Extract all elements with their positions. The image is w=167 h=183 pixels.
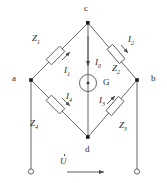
impedance-z2-body (107, 44, 125, 63)
current-arrow-i2 (121, 45, 128, 53)
impedance-z1-body (46, 46, 65, 65)
node-dot-b (135, 78, 139, 82)
current-label-i2: I2 (128, 35, 134, 46)
source-terminals (28, 169, 139, 174)
bridge-branches (31, 23, 137, 169)
node-dot-d (86, 135, 90, 139)
node-dot-c (86, 21, 90, 25)
impedance-z3-body (106, 96, 124, 115)
phasor-dot-icon (64, 154, 66, 156)
terminal-left-circle (28, 169, 33, 174)
current-label-i4: I4 (66, 92, 72, 103)
node-label-a: a (12, 74, 16, 83)
impedance-label-z3: Z3 (119, 121, 127, 132)
terminal-right-circle (134, 169, 139, 174)
impedance-z4-body (46, 95, 65, 114)
bridge-circuit-diagram (0, 0, 167, 183)
impedance-label-z2: Z2 (112, 64, 120, 75)
node-label-c: c (84, 4, 88, 13)
node-label-d: d (85, 145, 90, 154)
node-label-b: b (151, 74, 156, 83)
current-label-i0: I0 (95, 58, 101, 69)
source-voltage-label: U (60, 157, 67, 166)
galvanometer-label: G (103, 78, 110, 87)
impedance-label-z4: Z4 (30, 119, 38, 130)
node-dot-a (29, 78, 33, 82)
impedance-label-z1: Z1 (32, 34, 40, 45)
current-label-i3: I3 (99, 96, 105, 107)
current-label-i1: I1 (64, 66, 70, 77)
galvanometer-symbol (80, 75, 97, 92)
